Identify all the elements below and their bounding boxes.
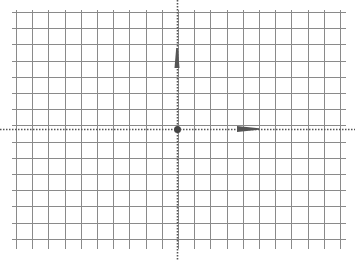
origin-dot <box>174 126 181 133</box>
x-axis-arrow-icon <box>237 126 259 132</box>
axis-vectors <box>175 48 260 132</box>
origin-point <box>174 126 181 133</box>
coordinate-grid-canvas <box>0 0 355 260</box>
